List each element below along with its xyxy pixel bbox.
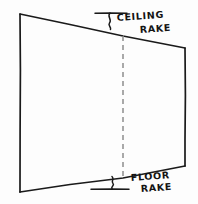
diagram-canvas: CEILING RAKE FLOOR RAKE [0,0,198,204]
ceiling-rake-label-line1: CEILING [116,9,164,23]
rake-diagram: CEILING RAKE FLOOR RAKE [0,0,198,204]
floor-rake-angle-marker [112,177,114,190]
ceiling-rake-label-line2: RAKE [139,22,171,35]
floor-rake-label-line2: RAKE [140,181,172,194]
ceiling-rake-angle-marker [109,13,111,30]
